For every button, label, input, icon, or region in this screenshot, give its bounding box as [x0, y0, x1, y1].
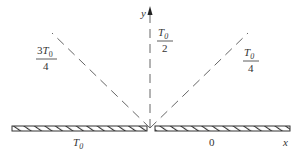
label-denominator: 2 — [162, 42, 168, 54]
y-axis-label: y — [140, 7, 146, 19]
isotherm-T0-4-label: T0 4 — [243, 46, 259, 74]
y-axis-arrow-icon — [148, 6, 153, 15]
isotherm-3T0-4-label: 3T0 4 — [36, 44, 57, 72]
right-plate — [155, 126, 290, 131]
svg-text:3T0: 3T0 — [37, 44, 53, 59]
isotherm-T0-2-label: T0 2 — [157, 26, 173, 54]
label-subscript: 0 — [79, 142, 83, 151]
left-plate-label: T0 — [73, 136, 83, 151]
svg-text:T0: T0 — [244, 46, 254, 61]
left-plate — [12, 126, 147, 131]
svg-text:T0: T0 — [158, 26, 168, 41]
label-denominator: 4 — [43, 60, 49, 72]
right-plate-label: 0 — [209, 136, 215, 148]
label-subscript: 0 — [164, 32, 168, 41]
isotherm-3T0-4-line — [52, 33, 150, 128]
label-denominator: 4 — [248, 62, 254, 74]
isotherm-diagram: y 3T0 4 T0 2 T0 4 T0 0 x — [0, 0, 297, 156]
label-subscript: 0 — [250, 52, 254, 61]
y-axis — [148, 6, 153, 128]
label-subscript: 0 — [49, 50, 53, 59]
x-axis-label: x — [282, 136, 288, 148]
